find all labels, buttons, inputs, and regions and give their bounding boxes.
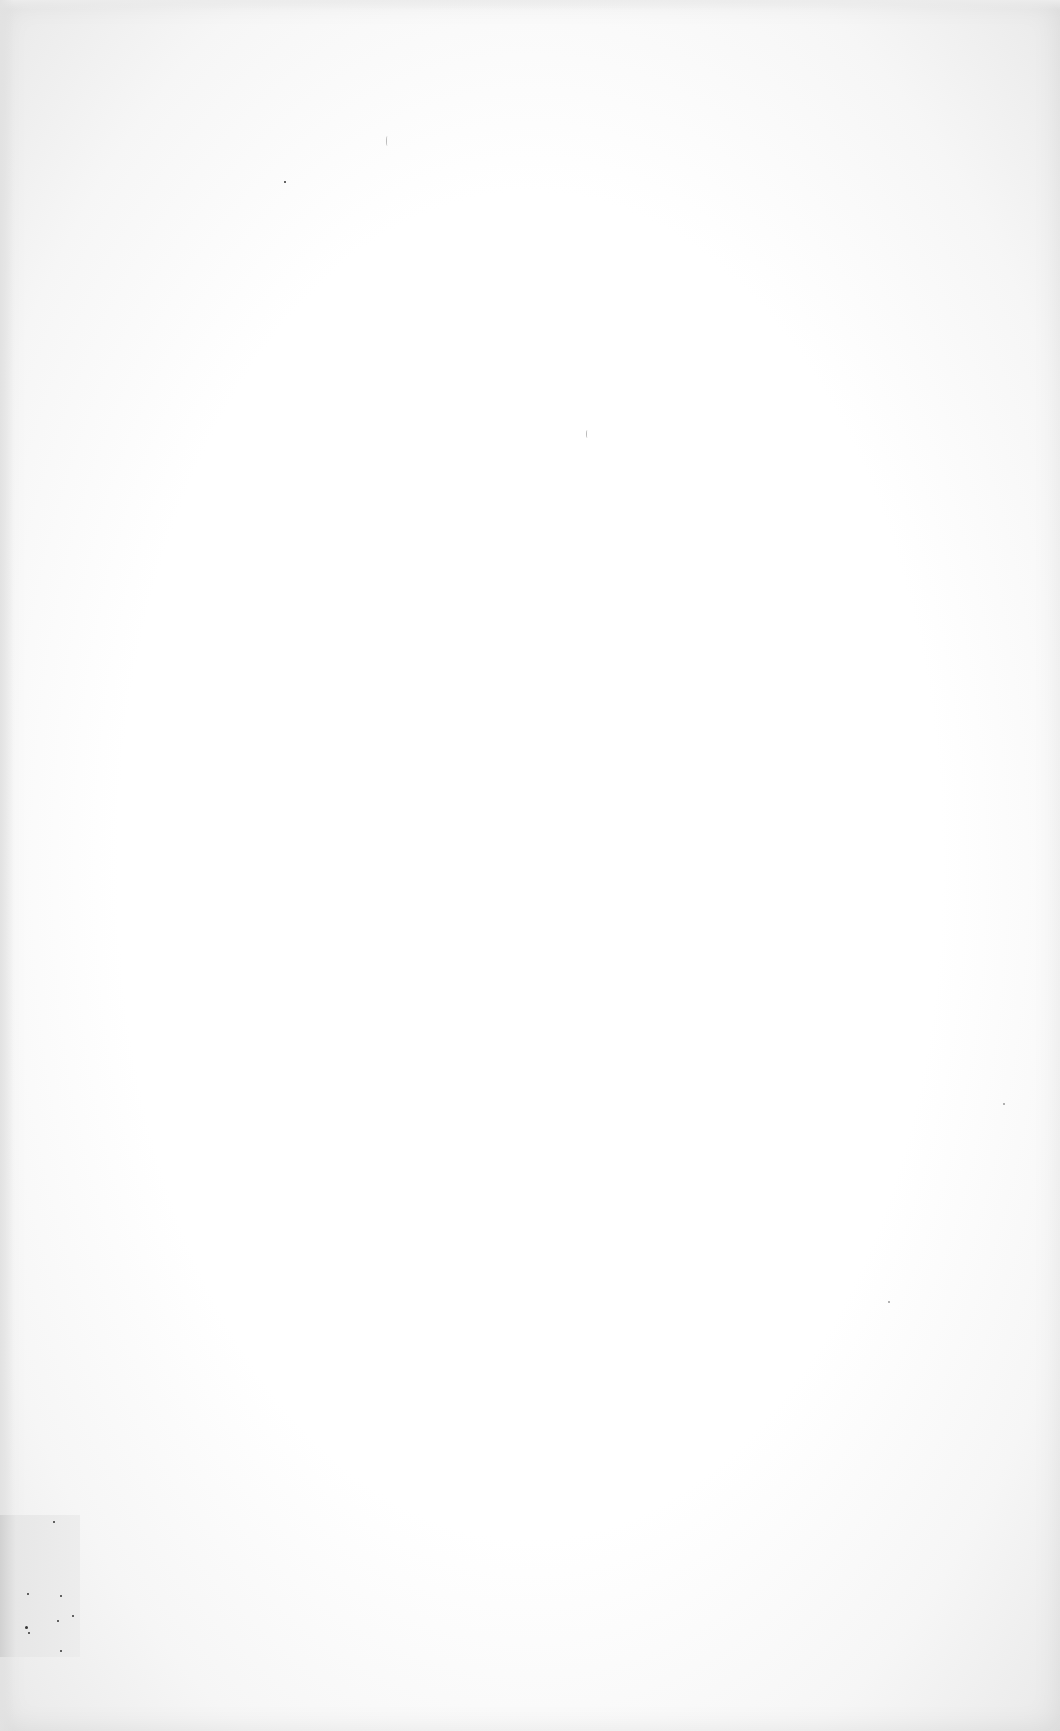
dust-speck — [27, 1593, 29, 1595]
page-top-edge-shadow — [0, 0, 1060, 10]
dust-speck — [1003, 1103, 1005, 1105]
dust-speck — [28, 1632, 30, 1634]
faint-pencil-mark — [586, 430, 589, 438]
dust-speck — [25, 1626, 28, 1629]
scan-smudge-bottom-left — [0, 1515, 80, 1657]
dust-speck — [57, 1620, 59, 1622]
dust-speck — [284, 181, 286, 183]
faint-pencil-mark — [386, 136, 389, 146]
dust-speck — [72, 1615, 74, 1617]
scanned-blank-page — [0, 0, 1060, 1731]
dust-speck — [53, 1521, 55, 1523]
page-left-edge-shadow — [0, 0, 14, 1731]
dust-speck — [60, 1595, 62, 1597]
dust-speck — [60, 1650, 62, 1652]
dust-speck — [888, 1301, 890, 1303]
